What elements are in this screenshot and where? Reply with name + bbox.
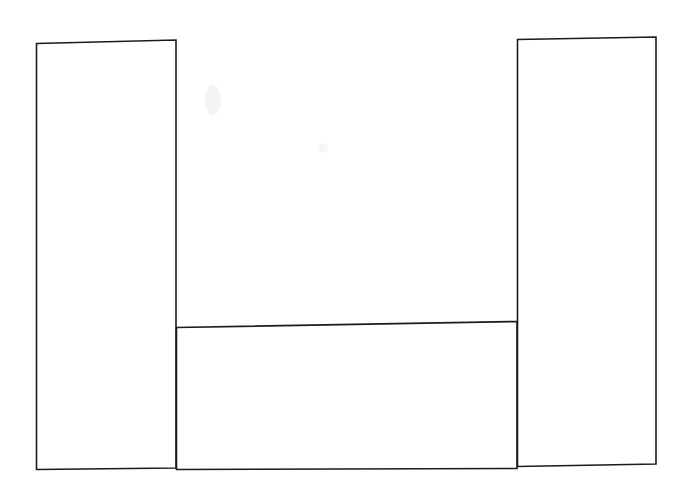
- bar-middle[interactable]: [177, 322, 518, 470]
- bar-left[interactable]: [37, 40, 177, 470]
- faint-smudge-upper-icon: [205, 85, 221, 115]
- chart-canvas: bar 100 33 100 1 2 3: [0, 0, 691, 493]
- bar-chart-figure: [0, 0, 691, 493]
- faint-smudge-middle-icon: [318, 143, 328, 153]
- bar-right[interactable]: [518, 37, 657, 467]
